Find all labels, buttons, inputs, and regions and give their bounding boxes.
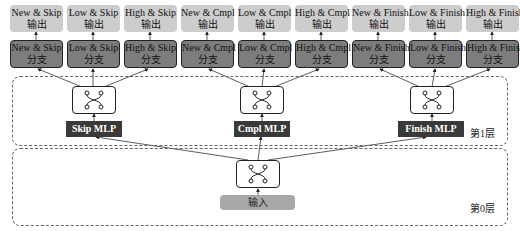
branch-label: New & Finish [353, 42, 404, 54]
output-label: Low & Cmpl [238, 7, 291, 19]
layer-0-label: 第0层 [470, 200, 495, 215]
output-high-cmpl: High & Cmpl 输出 [295, 5, 348, 32]
output-label: High & Finish [466, 7, 519, 19]
branch-new-finish: New & Finish 分支 [352, 40, 405, 68]
output-sublabel: 输出 [238, 19, 291, 31]
output-sublabel: 输出 [124, 19, 177, 31]
branch-low-finish: Low & Finish 分支 [409, 40, 462, 68]
branch-label: High & Finish [467, 42, 518, 54]
output-label: High & Skip [124, 7, 177, 19]
branch-low-cmpl: Low & Cmpl 分支 [238, 40, 291, 68]
output-label: High & Cmpl [295, 7, 348, 19]
branch-sublabel: 分支 [296, 54, 347, 66]
branch-low-skip: Low & Skip 分支 [67, 40, 120, 68]
output-sublabel: 输出 [352, 19, 405, 31]
branch-sublabel: 分支 [353, 54, 404, 66]
output-low-skip: Low & Skip 输出 [67, 5, 120, 32]
finish-mlp: Finish MLP [398, 121, 464, 137]
output-sublabel: 输出 [181, 19, 234, 31]
branch-sublabel: 分支 [182, 54, 233, 66]
branch-high-cmpl: High & Cmpl 分支 [295, 40, 348, 68]
branch-sublabel: 分支 [410, 54, 461, 66]
branch-label: Low & Finish [410, 42, 461, 54]
layer-1-label: 第1层 [470, 125, 495, 140]
cmpl-mlp: Cmpl MLP [234, 121, 290, 137]
branch-label: High & Cmpl [296, 42, 347, 54]
switch-icon [72, 86, 116, 114]
output-label: New & Finish [352, 7, 405, 19]
output-high-skip: High & Skip 输出 [124, 5, 177, 32]
switch-icon [236, 160, 280, 188]
output-sublabel: 输出 [466, 19, 519, 31]
switch-icon [240, 86, 284, 114]
output-label: New & Cmpl [181, 7, 234, 19]
branch-new-cmpl: New & Cmpl 分支 [181, 40, 234, 68]
branch-label: New & Skip [11, 42, 62, 54]
output-low-finish: Low & Finish 输出 [409, 5, 462, 32]
output-sublabel: 输出 [409, 19, 462, 31]
branch-sublabel: 分支 [68, 54, 119, 66]
output-new-finish: New & Finish 输出 [352, 5, 405, 32]
branch-label: Low & Cmpl [239, 42, 290, 54]
output-sublabel: 输出 [10, 19, 63, 31]
output-sublabel: 输出 [295, 19, 348, 31]
branch-high-skip: High & Skip 分支 [124, 40, 177, 68]
output-low-cmpl: Low & Cmpl 输出 [238, 5, 291, 32]
input-node: 输入 [220, 195, 295, 210]
output-new-skip: New & Skip 输出 [10, 5, 63, 32]
branch-sublabel: 分支 [239, 54, 290, 66]
output-label: Low & Finish [409, 7, 462, 19]
branch-sublabel: 分支 [125, 54, 176, 66]
switch-icon [410, 86, 454, 114]
branch-new-skip: New & Skip 分支 [10, 40, 63, 68]
output-label: New & Skip [10, 7, 63, 19]
output-label: Low & Skip [67, 7, 120, 19]
skip-mlp: Skip MLP [66, 121, 122, 137]
branch-label: High & Skip [125, 42, 176, 54]
branch-label: Low & Skip [68, 42, 119, 54]
output-high-finish: High & Finish 输出 [466, 5, 519, 32]
branch-sublabel: 分支 [467, 54, 518, 66]
branch-high-finish: High & Finish 分支 [466, 40, 519, 68]
branch-sublabel: 分支 [11, 54, 62, 66]
output-new-cmpl: New & Cmpl 输出 [181, 5, 234, 32]
output-sublabel: 输出 [67, 19, 120, 31]
branch-label: New & Cmpl [182, 42, 233, 54]
